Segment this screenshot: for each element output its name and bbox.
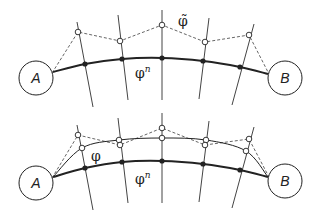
path-node-dot — [237, 64, 242, 69]
transversal-line — [199, 18, 209, 99]
path-node-dot — [237, 167, 242, 172]
path-node-dot — [119, 159, 124, 164]
smoothed-label-phi-bar: φ — [91, 148, 101, 164]
path-node-dot — [82, 165, 87, 170]
path-label-phi-n: φn — [135, 170, 151, 187]
transversal-line — [199, 121, 209, 202]
path-node-dot — [159, 158, 164, 163]
smoothed-point-marker — [243, 148, 249, 154]
perturbed-point-marker — [159, 22, 165, 28]
perturbed-point-marker — [159, 125, 165, 131]
endpoint-a-label: A — [30, 70, 40, 86]
path-node-dot — [82, 61, 87, 66]
endpoint-a-label: A — [30, 175, 40, 191]
path-node-dot — [200, 58, 205, 63]
perturbed-point-marker — [75, 29, 81, 35]
smoothed-point-marker — [159, 135, 165, 141]
perturbed-point-marker — [202, 39, 208, 45]
perturbed-point-marker — [246, 32, 252, 38]
perturbed-point-marker — [75, 132, 81, 138]
perturbed-point-marker — [202, 142, 208, 148]
path-node-dot — [119, 56, 124, 61]
top-panel: ABφnφ̃ — [19, 10, 302, 107]
string-method-diagram: ABφnφ̃ ABφnφ — [0, 0, 315, 218]
perturbed-point-marker — [117, 38, 123, 44]
perturbed-point-marker — [117, 142, 123, 148]
path-node-dot — [200, 161, 205, 166]
endpoint-b-label: B — [280, 70, 289, 86]
endpoint-b-label: B — [280, 173, 289, 189]
smoothed-point-marker — [79, 145, 85, 151]
path-node-dot — [159, 55, 164, 60]
perturbed-label-phi-tilde: φ̃ — [178, 13, 188, 29]
bottom-panel: ABφnφ — [19, 113, 302, 210]
path-label-phi-n: φn — [135, 64, 151, 81]
perturbed-point-marker — [246, 136, 252, 142]
